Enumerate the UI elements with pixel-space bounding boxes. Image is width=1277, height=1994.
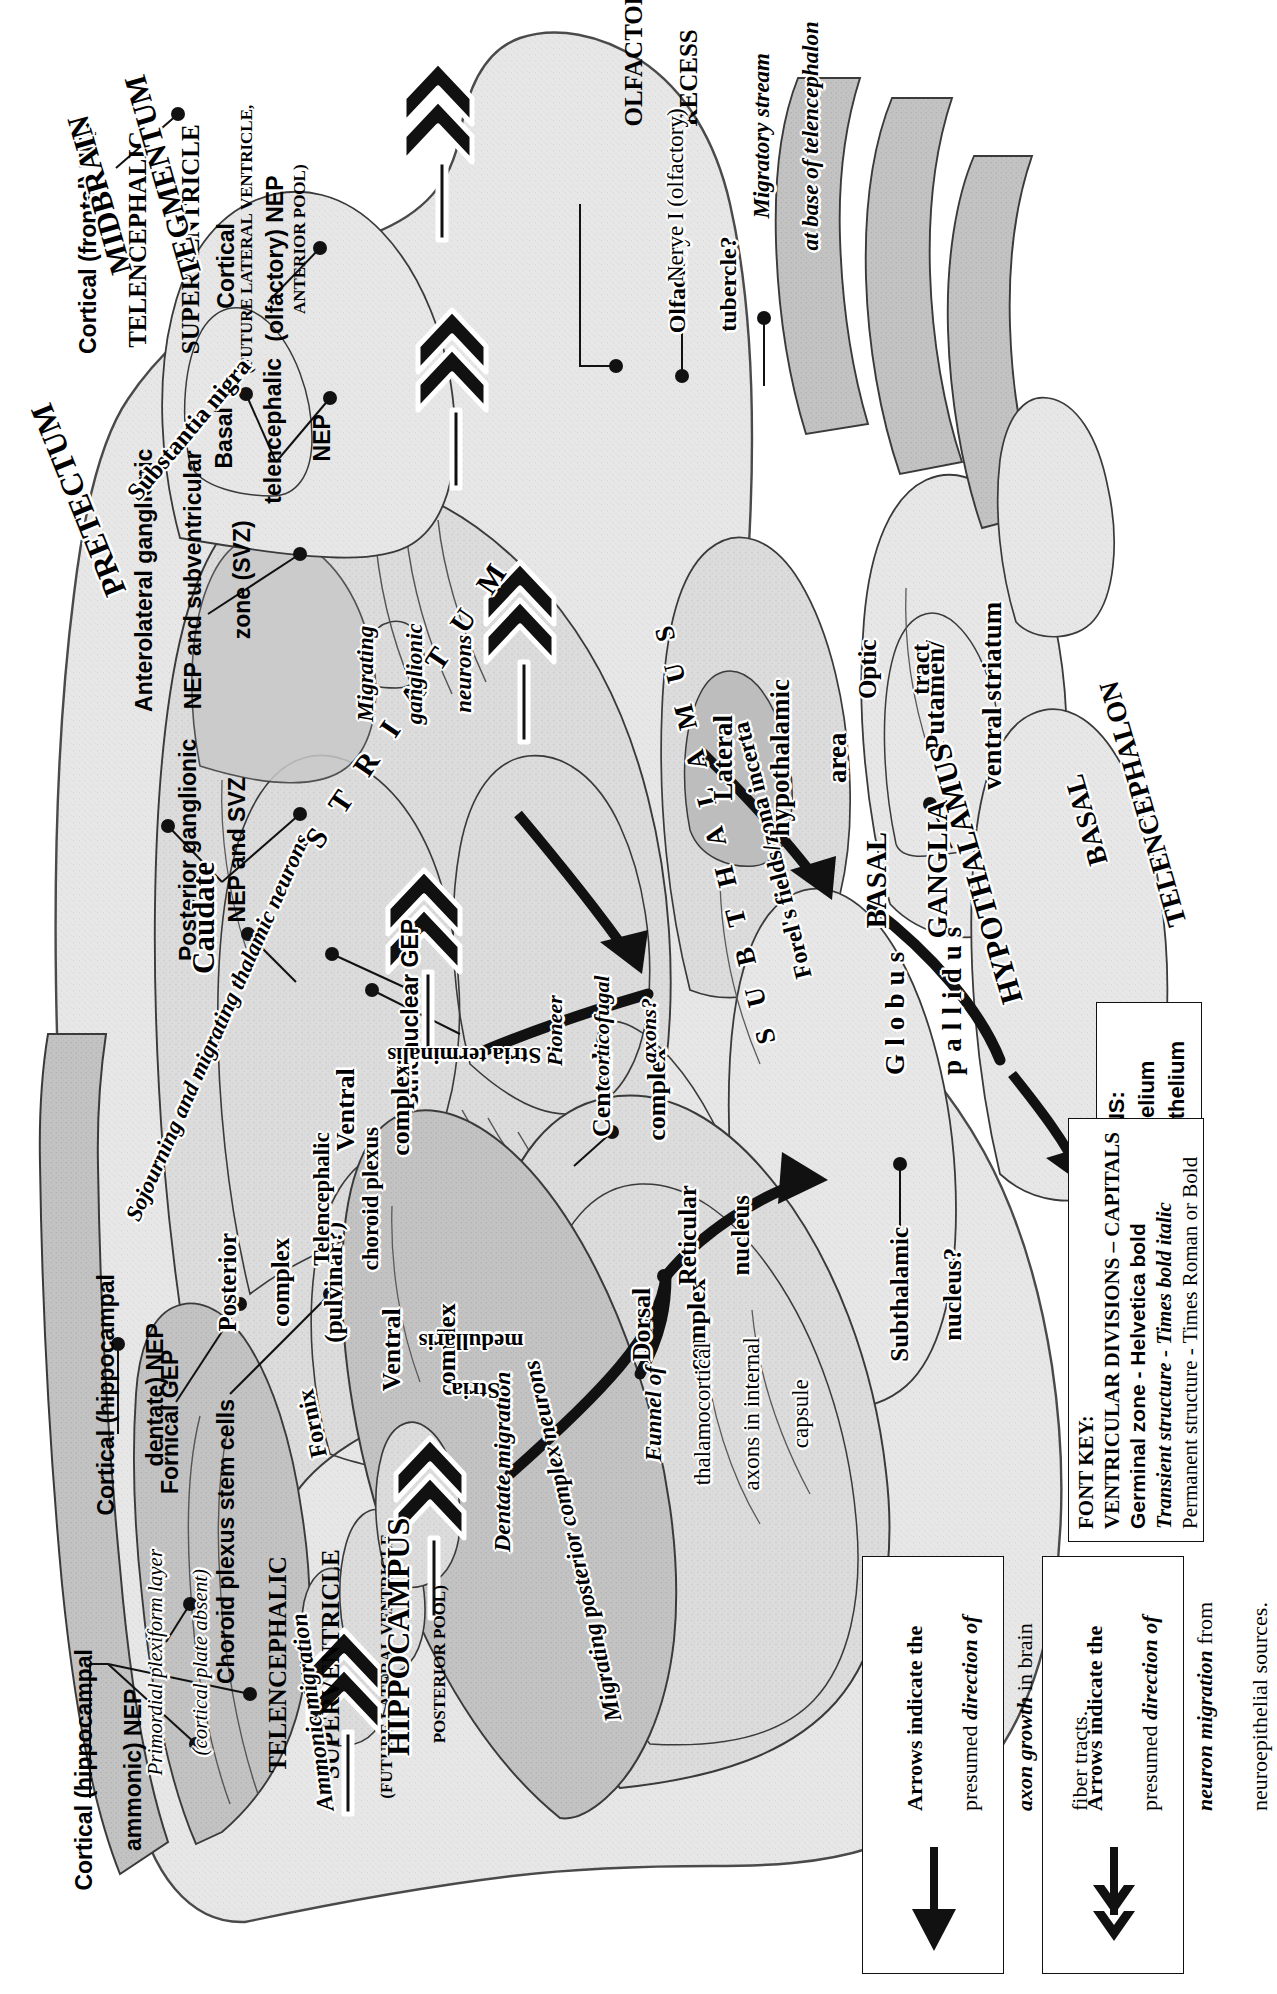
legend-axon-growth-box: Arrows indicate the presumed direction o… — [862, 1556, 1004, 1974]
double-chevron-arrow-left-icon — [1091, 1841, 1137, 1961]
font-key-ventricular: VENTRICULAR DIVISIONS – CAPITALS — [1101, 1132, 1123, 1529]
legend-axon-growth-text: Arrows indicate the presumed direction o… — [873, 1615, 1121, 1855]
font-key-transient: Transient structure - Times bold italic — [1153, 1202, 1175, 1529]
font-key-title: FONT KEY: — [1075, 1415, 1097, 1529]
solid-arrow-left-icon — [911, 1841, 957, 1961]
font-key-germinal: Germinal zone - Helvetica bold — [1127, 1223, 1149, 1529]
font-key-box: FONT KEY: VENTRICULAR DIVISIONS – CAPITA… — [1068, 1118, 1204, 1542]
font-key-permanent: Permanent structure - Times Roman or Bol… — [1179, 1157, 1201, 1529]
